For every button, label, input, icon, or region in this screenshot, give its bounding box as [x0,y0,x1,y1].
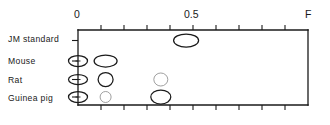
spot-mouse-1 [94,55,117,67]
spot-rat-1 [98,73,113,87]
spot-guinea-pig-2 [151,90,171,104]
row-label-rat: Rat [8,75,22,85]
spot-rat-2 [154,73,168,86]
spot-plot-svg [0,0,330,125]
row-label-mouse: Mouse [8,56,36,66]
axis-end-label-f: F [305,8,311,20]
spot-guinea-pig-1 [100,92,111,103]
axis-tick-label-0.5: 0.5 [184,8,199,20]
figure-container: 0 0.5 F JM standard Mouse Rat Guinea pig [0,0,330,125]
spot-jm-standard-0 [174,34,199,47]
row-label-guinea-pig: Guinea pig [8,93,53,103]
row-label-jm-standard: JM standard [8,34,59,44]
axis-tick-label-0: 0 [74,8,80,20]
